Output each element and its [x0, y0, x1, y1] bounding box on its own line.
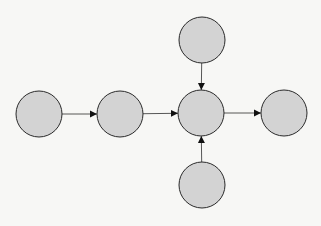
edges-group [62, 63, 261, 162]
graph-node-n4 [261, 90, 307, 136]
graph-node-n1 [16, 91, 62, 137]
diagram-canvas [0, 0, 321, 226]
nodes-group [16, 17, 307, 208]
graph-node-n5 [179, 17, 225, 63]
graph-node-n2 [97, 91, 143, 137]
graph-node-n6 [179, 162, 225, 208]
graph-node-n3 [178, 90, 224, 136]
